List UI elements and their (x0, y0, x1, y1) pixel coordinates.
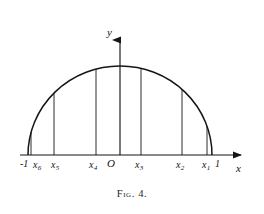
tick-label-x2: x2 (176, 160, 184, 172)
origin-label: O (107, 158, 115, 169)
figure-caption: Fig. 4. (0, 188, 264, 199)
tick-label-x3: x3 (135, 160, 143, 172)
tick-label-x6: x6 (33, 160, 41, 172)
tick-label-plus-one: 1 (215, 159, 220, 169)
tick-label-x5: x5 (51, 160, 59, 172)
tick-label-x1: x1 (202, 160, 210, 172)
x-axis-label: x (236, 163, 241, 174)
y-axis-label: y (107, 27, 112, 38)
tick-label-x4: x4 (89, 160, 97, 172)
semicircle-plot (0, 0, 264, 214)
tick-label-minus-one: -1 (20, 159, 28, 169)
figure-4-container: -1 1 x6 x5 x4 x3 x2 x1 O x y Fig. 4. (0, 0, 264, 214)
